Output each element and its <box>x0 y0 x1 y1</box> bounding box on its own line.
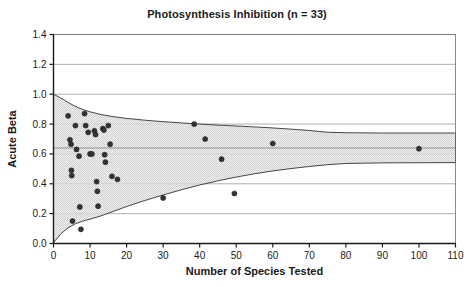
plot-canvas: 0.00.20.40.60.81.01.21.40102030405060708… <box>0 0 474 287</box>
x-tick-label: 60 <box>267 250 279 261</box>
data-point <box>106 123 111 128</box>
data-point <box>416 146 421 151</box>
data-point <box>82 111 87 116</box>
data-point <box>232 191 237 196</box>
data-point <box>89 151 94 156</box>
data-point <box>93 132 98 137</box>
x-tick-label: 90 <box>377 250 389 261</box>
x-tick-label: 110 <box>448 250 464 261</box>
y-tick-label: 0.0 <box>33 238 47 249</box>
funnel-outline <box>54 94 456 243</box>
x-tick-label: 100 <box>411 250 428 261</box>
data-point <box>115 177 120 182</box>
y-tick-label: 0.4 <box>33 178 47 189</box>
data-point <box>70 219 75 224</box>
data-point <box>78 227 83 232</box>
data-point <box>83 123 88 128</box>
x-tick-label: 70 <box>304 250 316 261</box>
data-point <box>103 160 108 165</box>
y-tick-label: 1.2 <box>33 59 47 70</box>
x-tick-label: 40 <box>194 250 206 261</box>
data-point <box>101 127 106 132</box>
y-tick-label: 0.8 <box>33 119 47 130</box>
y-axis-title: Acute Beta <box>6 109 18 167</box>
y-tick-label: 0.2 <box>33 208 47 219</box>
data-point <box>219 157 224 162</box>
x-axis-title: Number of Species Tested <box>186 265 323 277</box>
y-tick-label: 1.0 <box>33 89 47 100</box>
x-tick-label: 0 <box>51 250 57 261</box>
y-tick-label: 1.4 <box>33 29 47 40</box>
data-point <box>74 147 79 152</box>
data-point <box>108 142 113 147</box>
data-point <box>270 141 275 146</box>
data-point <box>86 130 91 135</box>
data-point <box>95 204 100 209</box>
funnel-region <box>54 94 456 243</box>
data-point <box>68 142 73 147</box>
data-point <box>94 179 99 184</box>
data-point <box>95 189 100 194</box>
data-point <box>66 113 71 118</box>
funnel-plot-figure: Photosynthesis Inhibition (n = 33) 0.00.… <box>0 0 474 287</box>
data-point <box>73 123 78 128</box>
data-point <box>76 154 81 159</box>
x-tick-label: 20 <box>121 250 133 261</box>
data-point <box>192 121 197 126</box>
data-point <box>102 152 107 157</box>
x-tick-label: 50 <box>231 250 243 261</box>
data-point <box>69 173 74 178</box>
y-tick-label: 0.6 <box>33 148 47 159</box>
data-point <box>109 174 114 179</box>
x-tick-label: 10 <box>84 250 96 261</box>
x-tick-label: 80 <box>340 250 352 261</box>
data-point <box>203 136 208 141</box>
x-tick-label: 30 <box>158 250 170 261</box>
data-point <box>69 168 74 173</box>
data-point <box>161 195 166 200</box>
data-point <box>77 204 82 209</box>
